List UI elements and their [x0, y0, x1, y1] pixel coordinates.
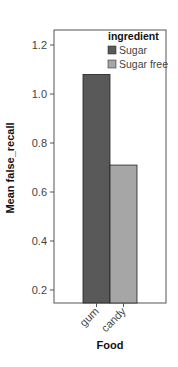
- legend-swatch-sugar: [108, 46, 116, 54]
- bar-chart: 0.20.40.60.81.01.2 gumcandy Mean false_r…: [0, 0, 178, 367]
- y-tick-label: 0.8: [32, 137, 47, 149]
- x-axis-title: Food: [97, 339, 124, 351]
- legend-label-sugar-free: Sugar free: [119, 58, 168, 70]
- bar-gum: [83, 74, 110, 303]
- y-tick-label: 0.2: [32, 284, 47, 296]
- legend-swatch-sugar-free: [108, 60, 116, 68]
- y-tick-label: 1.2: [32, 39, 47, 51]
- bar-candy: [110, 165, 137, 303]
- x-axis: gumcandy: [77, 303, 128, 334]
- legend-label-sugar: Sugar: [119, 44, 148, 56]
- y-axis-title: Mean false_recall: [4, 122, 16, 213]
- y-axis: 0.20.40.60.81.01.2: [32, 39, 54, 296]
- y-tick-label: 0.6: [32, 186, 47, 198]
- y-tick-label: 1.0: [32, 88, 47, 100]
- y-tick-label: 0.4: [32, 235, 47, 247]
- x-tick-label: candy: [99, 305, 129, 335]
- x-tick-label: gum: [77, 305, 101, 329]
- legend-title: ingredient: [108, 30, 159, 42]
